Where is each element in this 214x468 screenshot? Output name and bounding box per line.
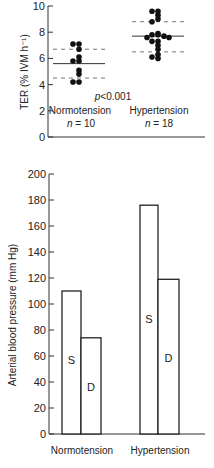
top-y-axis-label: TER (% IVM h⁻¹) xyxy=(19,34,30,110)
data-point xyxy=(161,33,167,39)
bar-label-s: S xyxy=(68,354,75,366)
bottom-y-tick-label: 0 xyxy=(40,428,46,440)
n-label-hypertension: n = 18 xyxy=(145,118,174,129)
scatter-group-normotension xyxy=(53,41,105,85)
n-value: = 18 xyxy=(151,118,174,129)
data-point xyxy=(70,58,76,64)
data-point xyxy=(166,35,172,41)
bottom-y-tick-label: 160 xyxy=(28,220,46,232)
data-point xyxy=(149,54,155,60)
scatter-group-hypertension xyxy=(132,8,184,61)
bottom-y-tick-label: 80 xyxy=(34,324,46,336)
figure: TER (% IVM h⁻¹) 0246810 p<0.001 Normoten… xyxy=(0,0,214,468)
category-label-hypertension: Hypertension xyxy=(131,445,190,456)
data-point xyxy=(76,79,82,85)
bar-label-s: S xyxy=(145,313,152,325)
bottom-y-tick-label: 180 xyxy=(28,194,46,206)
data-point xyxy=(70,79,76,85)
data-point xyxy=(155,32,161,38)
ter-scatter-chart: TER (% IVM h⁻¹) 0246810 p<0.001 Normoten… xyxy=(19,0,205,143)
n-label-normotension: n = 10 xyxy=(67,118,96,129)
bottom-y-tick-label: 140 xyxy=(28,246,46,258)
top-y-tick-label: 6 xyxy=(39,52,45,64)
bottom-y-tick-label: 20 xyxy=(34,402,46,414)
bottom-y-tick-label: 120 xyxy=(28,272,46,284)
top-y-tick-label: 8 xyxy=(39,26,45,38)
n-value: = 10 xyxy=(73,118,96,129)
group-label-hypertension: Hypertension xyxy=(130,105,189,116)
p-value-annotation: p<0.001 xyxy=(94,91,132,102)
data-point xyxy=(149,19,155,25)
top-y-tick-label: 2 xyxy=(39,105,45,117)
data-point xyxy=(149,39,155,45)
data-point xyxy=(76,71,82,77)
bar-label-d: D xyxy=(165,352,173,364)
bottom-y-tick-label: 60 xyxy=(34,350,46,362)
top-y-tick-label: 10 xyxy=(33,0,45,12)
data-point xyxy=(149,32,155,38)
p-value: <0.001 xyxy=(100,91,131,102)
bottom-y-axis-label: Arterial blood pressure (mm Hg) xyxy=(7,244,18,386)
data-point xyxy=(76,46,82,52)
bottom-y-tick-label: 40 xyxy=(34,376,46,388)
data-point xyxy=(149,8,155,14)
data-point xyxy=(76,58,82,64)
data-point xyxy=(70,41,76,47)
data-point xyxy=(155,46,161,52)
blood-pressure-bar-chart: Arterial blood pressure (mm Hg) 02040608… xyxy=(7,168,205,456)
bottom-y-tick-label: 100 xyxy=(28,298,46,310)
data-point xyxy=(76,41,82,47)
data-point xyxy=(144,35,150,41)
data-point xyxy=(155,16,161,22)
bottom-y-tick-label: 200 xyxy=(28,168,46,180)
top-y-tick-label: 0 xyxy=(39,131,45,143)
group-label-normotension: Normotension xyxy=(49,105,111,116)
data-point xyxy=(155,56,161,62)
top-y-tick-label: 4 xyxy=(39,79,45,91)
category-label-normotension: Normotension xyxy=(51,445,113,456)
bar-label-d: D xyxy=(87,381,95,393)
